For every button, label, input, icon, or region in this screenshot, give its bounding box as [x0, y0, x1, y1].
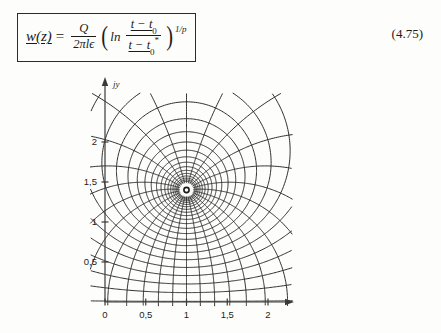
x-tick-label-4: 2 [265, 309, 270, 320]
log-argument-denominator: t − t0* [126, 35, 161, 55]
y-axis-arrowhead [102, 77, 108, 86]
log-num-subscript: 0 [152, 26, 157, 36]
log-num-text: t − t [131, 17, 153, 31]
log-den-text: t − t [128, 38, 150, 52]
log-argument-fraction: t − t0 t − t0* [126, 18, 161, 56]
figure-conformal-map: 00,511,520,511,52 jy [0, 70, 441, 333]
figure-svg: 00,511,520,511,52 jy [0, 70, 441, 333]
flux-line-15 [92, 94, 182, 184]
x-tick-label-1: 0,5 [139, 309, 152, 320]
y-tick-label-2: 1,5 [84, 176, 97, 187]
prefactor-denominator: 2πlϵ [71, 36, 96, 52]
x-tick-label-2: 1 [184, 309, 189, 320]
paren-open: ( [101, 25, 108, 48]
flux-line-17 [90, 166, 180, 186]
equation-equals-sign: = [56, 29, 64, 44]
x-axis-arrowhead [285, 299, 294, 305]
flux-line-14 [151, 94, 185, 183]
log-den-star: * [155, 35, 160, 45]
log-den-subscript: 0 [150, 47, 155, 57]
equipotential-21 [187, 301, 293, 302]
flux-line-18 [90, 182, 179, 194]
equipotential-15-1 [91, 94, 100, 111]
y-axis-label: jy [112, 79, 120, 89]
flux-line-11 [190, 94, 280, 184]
textbook-page: w(z) = Q 2πlϵ ( ln t − t0 t − t0* ) 1/p … [0, 0, 441, 333]
prefactor-numerator: Q [77, 22, 90, 37]
flux-line-10 [192, 135, 293, 185]
y-tick-label-1: 1 [92, 216, 97, 227]
equation-row: w(z) = Q 2πlϵ ( ln t − t0 t − t0* ) 1/p [26, 18, 187, 56]
flux-line-12 [188, 94, 222, 183]
equation-number: (4.75) [392, 26, 423, 42]
exponent: 1/p [175, 25, 187, 34]
equipotential-19 [187, 268, 292, 284]
prefactor-fraction: Q 2πlϵ [71, 22, 96, 52]
x-tick-label-0: 0 [102, 309, 107, 320]
ln-operator: ln [110, 30, 120, 43]
equipotential-20 [187, 285, 291, 293]
equipotential-lines-group [91, 93, 293, 301]
equation-box: w(z) = Q 2πlϵ ( ln t − t0 t − t0* ) 1/p [17, 13, 196, 62]
y-tick-label-3: 2 [92, 136, 97, 147]
equipotential-18 [187, 251, 292, 276]
x-tick-label-3: 1,5 [221, 309, 234, 320]
equation-number-value: 4.75 [396, 26, 419, 41]
y-tick-label-0: 0,5 [84, 256, 97, 267]
log-argument-numerator: t − t0 [129, 18, 159, 35]
singularity-point [184, 187, 189, 192]
equation-lhs: w(z) [26, 29, 52, 44]
paren-close: ) [166, 25, 173, 48]
